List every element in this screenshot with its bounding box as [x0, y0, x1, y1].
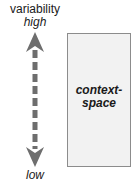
context-space-label: context- space [68, 84, 130, 110]
context-space-box: context- space [67, 33, 131, 167]
axis-low-label: low [0, 169, 70, 182]
double-headed-dashed-arrow-icon [22, 32, 48, 167]
box-label-line2: space [68, 97, 130, 110]
axis-high-label: high [0, 16, 70, 29]
